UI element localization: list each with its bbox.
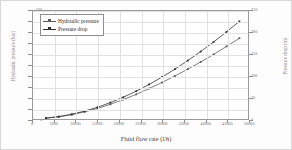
gridline-vertical xyxy=(120,11,121,119)
legend-line-icon xyxy=(43,26,56,33)
x-axis-title: Fluid flow rate (l/h) xyxy=(1,135,291,142)
series-marker xyxy=(135,93,137,95)
y-axis-right-tick-mark xyxy=(249,98,253,99)
series-marker xyxy=(71,113,73,115)
legend-item-label: Hydraulic pressure xyxy=(58,18,99,24)
x-axis-tick-mark xyxy=(227,120,228,123)
x-axis-tick-mark xyxy=(32,120,33,123)
gridline-vertical xyxy=(185,11,186,119)
y-axis-right-tick-mark xyxy=(249,32,253,33)
series-marker xyxy=(110,103,112,105)
gridline-horizontal xyxy=(33,44,248,45)
series-marker xyxy=(135,90,137,92)
gridline-vertical xyxy=(163,11,164,119)
series-marker xyxy=(110,102,112,104)
chart-figure: Hydraulic pressure (bar) Pressure drop (… xyxy=(0,0,292,150)
series-marker xyxy=(239,37,241,39)
gridline-horizontal xyxy=(33,66,248,67)
x-axis-tick-mark xyxy=(119,120,120,123)
x-axis-tick-mark xyxy=(249,120,250,123)
series-marker xyxy=(45,117,47,119)
chart-legend: Hydraulic pressure Pressure drop xyxy=(40,14,104,36)
y-axis-right-title: Pressure drop (m) xyxy=(282,8,288,104)
series-marker xyxy=(122,96,124,98)
x-axis-tick-mark xyxy=(184,120,185,123)
x-axis-tick-mark xyxy=(97,120,98,123)
series-marker xyxy=(200,61,202,63)
x-axis-tick-mark xyxy=(206,120,207,123)
series-marker xyxy=(226,46,228,48)
x-axis-tick-mark xyxy=(75,120,76,123)
gridline-horizontal xyxy=(33,110,248,111)
series-marker xyxy=(213,41,215,43)
series-marker xyxy=(200,51,202,53)
gridline-horizontal xyxy=(33,11,248,12)
legend-line-icon xyxy=(43,18,56,25)
legend-item[interactable]: Pressure drop xyxy=(43,25,99,33)
y-axis-right-tick-mark xyxy=(249,10,253,11)
y-axis-left-title: Hydraulic pressure (bar) xyxy=(10,8,16,104)
gridline-vertical xyxy=(142,11,143,119)
series-marker xyxy=(148,84,150,86)
gridline-vertical xyxy=(207,11,208,119)
gridline-horizontal xyxy=(33,88,248,89)
series-marker xyxy=(174,68,176,70)
legend-item-label: Pressure drop xyxy=(58,26,88,32)
y-axis-right-tick-mark xyxy=(249,54,253,55)
gridline-horizontal xyxy=(33,99,248,100)
legend-item[interactable]: Hydraulic pressure xyxy=(43,17,99,25)
series-marker xyxy=(58,116,60,118)
y-axis-right-tick-mark xyxy=(249,76,253,77)
gridline-horizontal xyxy=(33,77,248,78)
series-marker xyxy=(187,68,189,70)
gridline-vertical xyxy=(228,11,229,119)
series-line xyxy=(46,38,240,118)
series-marker xyxy=(187,60,189,62)
x-axis-tick-mark xyxy=(141,120,142,123)
x-axis-tick-mark xyxy=(162,120,163,123)
x-axis-tick-mark xyxy=(54,120,55,123)
gridline-horizontal xyxy=(33,55,248,56)
